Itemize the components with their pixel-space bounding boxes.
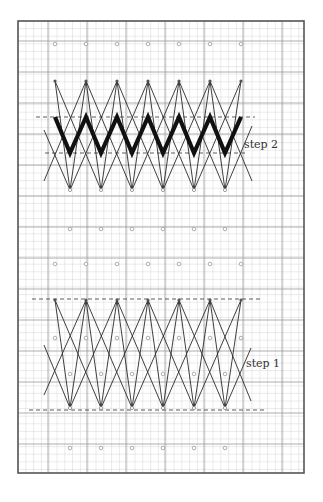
graph-paper-frame xyxy=(18,21,304,473)
minor-grid xyxy=(18,21,304,473)
step2-label: step 2 xyxy=(244,138,278,151)
major-grid xyxy=(18,21,304,473)
step1-label: step 1 xyxy=(246,357,280,370)
step2-stitches xyxy=(36,79,255,191)
stitch-diagram xyxy=(0,0,323,502)
